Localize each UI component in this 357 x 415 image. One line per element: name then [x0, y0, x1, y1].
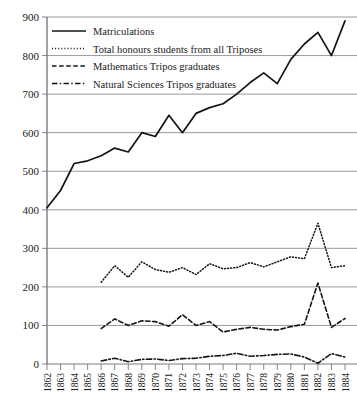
line-chart: 0100200300400500600700800900 18621863186… [0, 0, 357, 415]
y-axis-tick-label: 500 [23, 165, 40, 177]
y-axis-tick-label: 300 [23, 242, 40, 254]
y-axis-tick-label: 400 [23, 204, 40, 216]
x-axis-tick-label: 1870 [151, 373, 161, 392]
x-axis-tick-label: 1872 [178, 373, 188, 392]
y-axis-tick-label: 200 [23, 281, 40, 293]
x-axis-tick-label: 1880 [286, 373, 296, 392]
x-axis-tick-label: 1864 [70, 373, 80, 392]
x-axis-tick-label: 1862 [43, 373, 53, 392]
chart-container: 0100200300400500600700800900 18621863186… [0, 0, 357, 415]
x-axis-tick-label: 1873 [192, 373, 202, 392]
legend-label: Total honours students from all Triposes [93, 44, 262, 55]
y-axis-tick-label: 900 [23, 11, 40, 23]
y-axis-tick-label: 600 [23, 127, 40, 139]
x-axis-tick-label: 1884 [341, 373, 351, 392]
x-axis-tick-label: 1883 [327, 373, 337, 392]
legend-label: Mathematics Tripos graduates [93, 61, 220, 72]
y-axis-tick-label: 100 [23, 319, 40, 331]
y-axis-tick-label: 700 [23, 88, 40, 100]
x-axis-tick-label: 1881 [300, 373, 310, 392]
x-axis-tick-label: 1875 [219, 373, 229, 392]
x-axis-tick-label: 1882 [313, 373, 323, 392]
x-axis-tick-label: 1868 [124, 373, 134, 392]
legend-label: Natural Sciences Tripos graduates [93, 79, 236, 90]
x-axis-tick-label: 1871 [164, 373, 174, 392]
x-axis-tick-label: 1867 [110, 373, 120, 392]
x-axis-tick-label: 1877 [246, 373, 256, 392]
x-axis-tick-label: 1876 [232, 373, 242, 392]
x-axis-tick-labels: 1862186318641865186618671868186918701871… [43, 373, 351, 392]
x-axis-tick-label: 1879 [273, 373, 283, 392]
x-axis-tick-label: 1869 [137, 373, 147, 392]
x-axis-tick-label: 1878 [259, 373, 269, 392]
legend-label: Matriculations [93, 26, 154, 37]
x-axis-tick-label: 1866 [97, 373, 107, 392]
x-axis-tick-label: 1863 [56, 373, 66, 392]
y-axis-tick-label: 800 [23, 50, 40, 62]
x-axis-tick-label: 1865 [83, 373, 93, 392]
x-axis-tick-label: 1874 [205, 373, 215, 392]
y-axis-tick-label: 0 [34, 358, 40, 370]
